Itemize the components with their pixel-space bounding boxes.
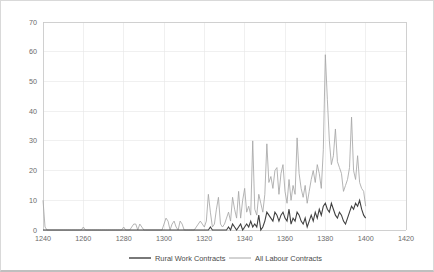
- x-tick-label: 1260: [75, 234, 91, 243]
- x-tick-label: 1400: [358, 234, 374, 243]
- y-tick-label: 10: [29, 196, 37, 205]
- x-tick-label: 1320: [196, 234, 212, 243]
- x-axis-tick-labels: 1240126012801300132013401360138014001420: [35, 234, 414, 243]
- chart-legend: Rural Work ContractsAll Labour Contracts: [129, 254, 322, 263]
- y-tick-label: 20: [29, 166, 37, 175]
- legend-label-2: All Labour Contracts: [255, 254, 322, 263]
- x-tick-label: 1340: [237, 234, 253, 243]
- y-axis-tick-labels: 010203040506070: [29, 18, 37, 235]
- x-tick-label: 1300: [156, 234, 172, 243]
- x-tick-label: 1380: [317, 234, 333, 243]
- line-chart: 010203040506070 124012601280130013201340…: [1, 1, 434, 272]
- chart-container: 010203040506070 124012601280130013201340…: [0, 0, 434, 272]
- x-tick-label: 1240: [35, 234, 51, 243]
- x-tick-label: 1360: [277, 234, 293, 243]
- x-tick-label: 1280: [116, 234, 132, 243]
- x-tick-label: 1420: [398, 234, 414, 243]
- y-tick-label: 40: [29, 107, 37, 116]
- y-tick-label: 50: [29, 77, 37, 86]
- y-tick-label: 30: [29, 136, 37, 145]
- y-tick-label: 60: [29, 47, 37, 56]
- legend-label-1: Rural Work Contracts: [155, 254, 226, 263]
- y-tick-label: 70: [29, 18, 37, 27]
